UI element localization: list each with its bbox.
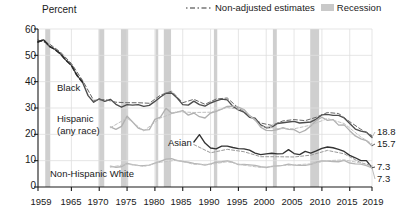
end-label-hispanic: 18.8 bbox=[377, 127, 396, 137]
end-label-leader bbox=[372, 132, 375, 137]
end-label-leader bbox=[372, 167, 375, 168]
end-label-asian: 7.3 bbox=[377, 162, 390, 172]
series-annotation-black: Black bbox=[57, 83, 80, 94]
end-label-leader bbox=[372, 168, 375, 179]
series-annotation-hispanic-line2: (any race) bbox=[57, 126, 100, 137]
series-annotation-asian: Asian bbox=[168, 138, 192, 149]
plot-area bbox=[0, 0, 417, 223]
series-annotation-white: Non-Hispanic White bbox=[50, 169, 134, 180]
black-series-dashed-segment bbox=[38, 40, 83, 82]
end-label-white: 7.3 bbox=[377, 174, 390, 184]
series-annotation-hispanic-line1: Hispanic bbox=[57, 114, 93, 125]
end-label-leader bbox=[372, 144, 375, 146]
poverty-rate-chart: Non-adjusted estimates Recession Percent… bbox=[0, 0, 417, 223]
end-label-black: 15.7 bbox=[377, 139, 396, 149]
